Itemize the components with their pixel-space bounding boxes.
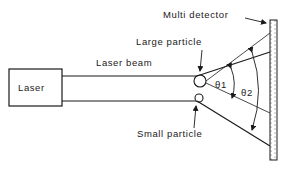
- large-particle-scatter-rays: [197, 33, 270, 113]
- theta2-label: θ2: [241, 87, 253, 98]
- multi-detector-label: Multi detector: [163, 9, 228, 20]
- large-particle-label: Large particle: [136, 36, 202, 47]
- laser-label: Laser: [18, 82, 45, 93]
- laser-source: Laser: [9, 69, 62, 106]
- small-particle-label: Small particle: [137, 128, 202, 139]
- laser-beam: Laser beam: [62, 57, 197, 101]
- small-particle: [195, 94, 203, 102]
- small-particle-arrow: [194, 106, 196, 128]
- multi-detector-arrow: [245, 18, 266, 23]
- large-particle: [194, 75, 206, 87]
- large-particle-arrow: [200, 50, 202, 71]
- laser-beam-label: Laser beam: [96, 57, 152, 68]
- angle-theta2: θ2: [241, 52, 259, 130]
- theta1-label: θ1: [215, 79, 227, 90]
- particle-scattering-diagram: Laser Laser beam Large particle Small pa…: [0, 0, 287, 185]
